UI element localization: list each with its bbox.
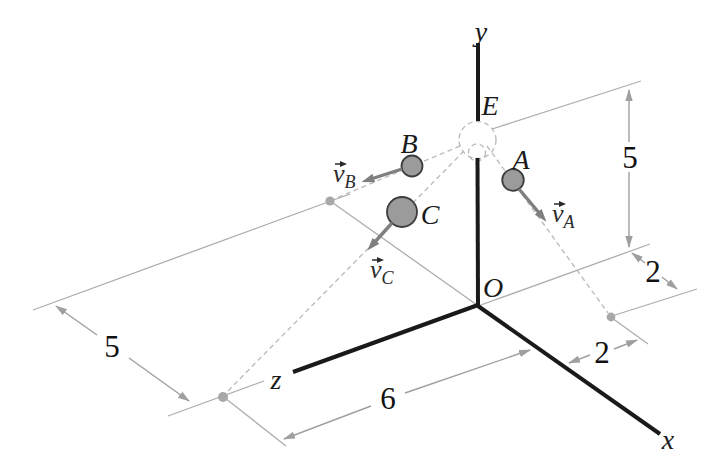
point-c-label: C <box>421 199 440 230</box>
figure-canvas: y x z O E A B C 5 5 6 2 2 vA vB vC <box>0 0 725 471</box>
ground-dot-bottom-left <box>218 392 228 402</box>
ball-c <box>387 197 417 227</box>
z-axis-label: z <box>270 364 282 395</box>
ground-dot-left <box>325 196 334 205</box>
dim-2-upper-label: 2 <box>645 254 661 289</box>
origin-label: O <box>483 272 503 303</box>
dim-2-lower-label: 2 <box>594 335 610 370</box>
vc-symbol: v <box>370 255 382 284</box>
va-subscript: A <box>563 212 576 232</box>
vb-symbol: v <box>333 159 345 188</box>
y-axis-lower <box>478 158 479 306</box>
dim-left-5-label: 5 <box>104 329 120 364</box>
ground-dot-right <box>607 313 616 322</box>
point-b-label: B <box>400 128 417 159</box>
vb-subscript: B <box>345 172 356 192</box>
y-axis-label: y <box>472 16 488 47</box>
point-e-label: E <box>480 90 498 121</box>
background <box>0 0 725 471</box>
va-symbol: v <box>552 199 564 228</box>
dim-6-label: 6 <box>380 381 396 416</box>
point-a-label: A <box>510 144 530 175</box>
x-axis-label: x <box>661 424 675 455</box>
diagram-svg: y x z O E A B C 5 5 6 2 2 vA vB vC <box>0 0 725 471</box>
vc-subscript: C <box>382 268 395 288</box>
dim-height-5-label: 5 <box>622 140 638 175</box>
